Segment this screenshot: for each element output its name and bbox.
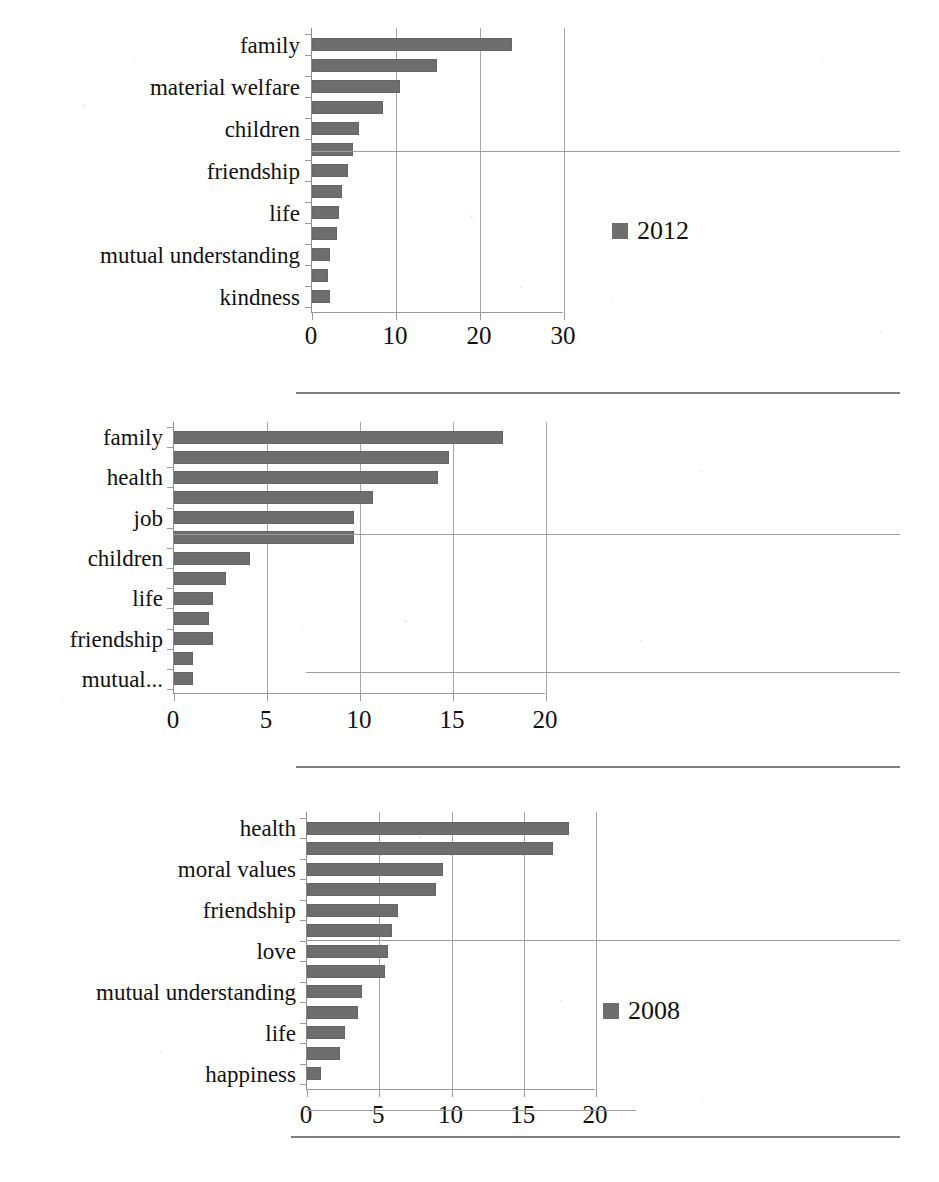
y-tick [300, 1064, 307, 1065]
bar [174, 652, 193, 665]
chart-2004-body: healthmoral valuesfriendshiplovemutual u… [0, 812, 939, 1107]
category-label: material welfare [150, 75, 300, 98]
bar [174, 612, 209, 625]
bar [312, 38, 512, 51]
category-label: children [225, 117, 300, 140]
figure-page: { "figure": { "background": "#ffffff", "… [0, 0, 939, 1182]
scan-speckle [520, 286, 522, 288]
scan-rule-1 [311, 151, 900, 152]
scan-speckle [82, 104, 85, 107]
bar [312, 101, 383, 114]
chart-2008: familyhealthjobchildrenlifefriendshipmut… [0, 422, 939, 762]
scan-rule-6 [306, 940, 900, 941]
x-tick-label-10: 10 [347, 707, 372, 732]
chart-2004-plot-area [306, 812, 595, 1090]
y-tick [167, 548, 174, 549]
x-tick-label-0: 0 [305, 323, 318, 348]
scan-speckle [404, 620, 407, 623]
y-tick [305, 76, 312, 77]
x-tick-label-20: 20 [583, 1102, 608, 1127]
x-tick-15 [524, 1089, 525, 1097]
scan-speckle [700, 1100, 702, 1102]
y-tick [305, 223, 312, 224]
y-tick [167, 608, 174, 609]
bar [174, 451, 449, 464]
y-tick [305, 34, 312, 35]
y-tick [300, 1023, 307, 1024]
gridline-20 [596, 812, 597, 1089]
y-tick [305, 286, 312, 287]
bar [312, 269, 328, 282]
y-tick [167, 487, 174, 488]
bar [312, 164, 348, 177]
bar [312, 143, 353, 156]
category-label: family [103, 426, 163, 449]
bar [312, 290, 330, 303]
scan-speckle [418, 836, 421, 839]
bar [307, 1026, 345, 1039]
category-label: mutual understanding [100, 243, 300, 266]
x-tick-label-20: 20 [533, 707, 558, 732]
scan-rule-2 [296, 392, 900, 394]
y-tick [167, 467, 174, 468]
scan-rule-3 [173, 534, 900, 535]
bar [312, 227, 337, 240]
bar [312, 248, 330, 261]
gridline-20 [480, 28, 481, 312]
x-tick-label-10: 10 [438, 1102, 463, 1127]
y-tick [167, 427, 174, 428]
chart-2008-category-labels: familyhealthjobchildrenlifefriendshipmut… [0, 422, 163, 694]
x-tick-20 [596, 1089, 597, 1097]
category-label: job [134, 506, 163, 529]
bar [307, 842, 553, 855]
x-tick-label-10: 10 [383, 323, 408, 348]
scan-speckle [300, 628, 302, 630]
x-tick-0 [307, 1089, 308, 1097]
category-label: happiness [205, 1062, 296, 1085]
y-tick [305, 265, 312, 266]
x-tick-label-30: 30 [551, 323, 576, 348]
y-tick [305, 139, 312, 140]
x-tick-label-15: 15 [440, 707, 465, 732]
scan-speckle [160, 1050, 162, 1052]
chart-2004-category-labels: healthmoral valuesfriendshiplovemutual u… [0, 812, 296, 1090]
y-tick [300, 818, 307, 819]
y-tick [305, 181, 312, 182]
x-tick-10 [360, 693, 361, 701]
y-tick [300, 1002, 307, 1003]
y-tick [300, 859, 307, 860]
category-label: kindness [220, 285, 301, 308]
bar [307, 945, 388, 958]
y-tick [167, 649, 174, 650]
scan-speckle [470, 215, 473, 218]
chart-2012: familymaterial welfarechildrenfriendship… [0, 28, 939, 388]
scan-speckle [880, 330, 882, 332]
y-tick [167, 588, 174, 589]
category-label: friendship [203, 899, 296, 922]
scan-speckle [244, 900, 246, 902]
scan-speckle [700, 470, 702, 472]
y-tick [305, 202, 312, 203]
y-tick [300, 920, 307, 921]
bar [307, 1047, 340, 1060]
x-tick-label-15: 15 [510, 1102, 535, 1127]
legend-label: 2012 [637, 218, 689, 244]
chart-2012-plot-area [311, 28, 563, 313]
chart-2012-body: familymaterial welfarechildrenfriendship… [0, 28, 939, 328]
category-label: health [107, 466, 163, 489]
x-tick-5 [267, 693, 268, 701]
y-tick [300, 982, 307, 983]
category-label: family [240, 33, 300, 56]
scan-rule-7 [291, 1136, 900, 1138]
scan-rule-5 [296, 766, 900, 768]
category-label: life [132, 587, 163, 610]
x-tick-0 [312, 312, 313, 320]
y-tick [167, 528, 174, 529]
scan-speckle [60, 700, 62, 702]
scan-speckle [560, 1000, 562, 1002]
category-label: children [88, 547, 163, 570]
scan-speckle [132, 60, 134, 62]
category-label: moral values [178, 858, 296, 881]
bar [307, 985, 362, 998]
y-tick [300, 1043, 307, 1044]
